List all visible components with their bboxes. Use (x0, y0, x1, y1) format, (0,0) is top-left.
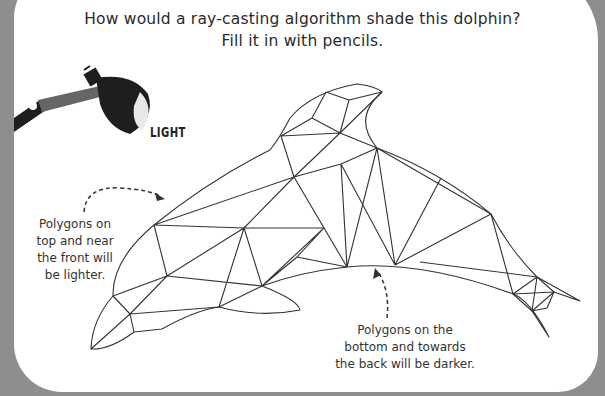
annotation-line: top and near (30, 233, 120, 250)
desk-lamp-icon (14, 66, 150, 134)
annotation-line: Polygons on the (320, 322, 490, 339)
annotation-lighter: Polygons on top and near the front will … (30, 216, 120, 284)
annotation-line: the back will be darker. (320, 356, 490, 373)
annotation-line: be lighter. (30, 267, 120, 284)
arrow-head-top (155, 193, 165, 201)
light-label: LIGHT (150, 124, 186, 140)
annotation-line: bottom and towards (320, 339, 490, 356)
illustration (0, 0, 605, 396)
annotation-line: Polygons on (30, 216, 120, 233)
annotation-darker: Polygons on the bottom and towards the b… (320, 322, 490, 373)
arrow-to-top (84, 188, 160, 212)
annotation-line: the front will (30, 250, 120, 267)
arrow-to-bottom (378, 272, 388, 318)
